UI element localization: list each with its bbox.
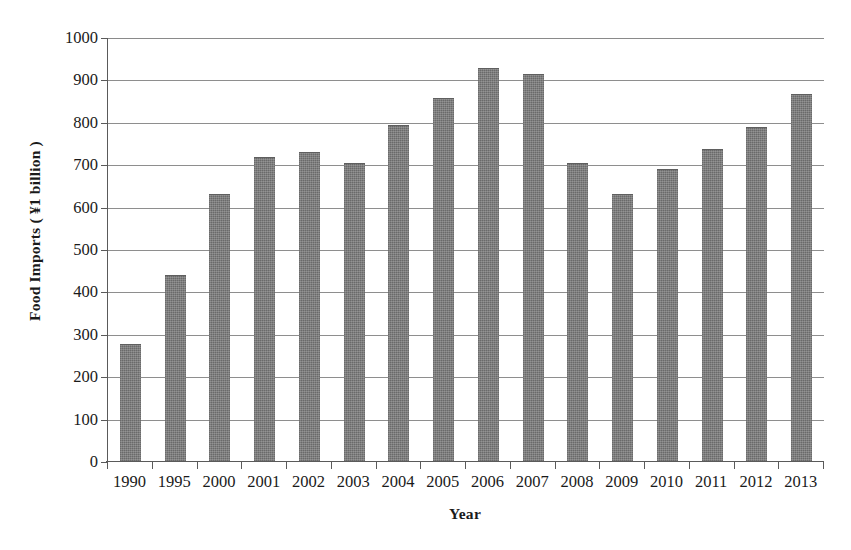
bar-slot — [779, 38, 824, 462]
y-tick-mark — [101, 377, 108, 378]
bar-slot — [511, 38, 556, 462]
bar-slot — [377, 38, 422, 462]
bar-slot — [198, 38, 243, 462]
x-axis-tick-labels: 1990199520002001200220032004200520062007… — [107, 472, 823, 496]
x-tick-label: 2011 — [689, 472, 734, 496]
bar[interactable] — [567, 163, 588, 462]
bar[interactable] — [746, 127, 767, 462]
bar-slot — [421, 38, 466, 462]
y-tick-label: 500 — [73, 240, 98, 260]
y-tick-label: 400 — [73, 282, 98, 302]
x-tick-mark — [689, 462, 690, 469]
y-tick-label: 300 — [73, 325, 98, 345]
x-tick-mark — [510, 462, 511, 469]
plot-area — [107, 38, 824, 462]
x-tick-mark — [823, 462, 824, 469]
y-tick-label: 600 — [73, 198, 98, 218]
bar[interactable] — [165, 275, 186, 462]
x-tick-mark — [376, 462, 377, 469]
bar-slot — [645, 38, 690, 462]
x-tick-mark — [152, 462, 153, 469]
y-tick-label: 900 — [73, 70, 98, 90]
y-tick-mark — [101, 80, 108, 81]
y-tick-mark — [101, 420, 108, 421]
x-axis-tick-marks — [107, 462, 823, 469]
bar[interactable] — [791, 94, 812, 462]
x-tick-mark — [331, 462, 332, 469]
x-tick-label: 1995 — [152, 472, 197, 496]
bar[interactable] — [299, 152, 320, 462]
x-tick-mark — [286, 462, 287, 469]
x-tick-mark — [465, 462, 466, 469]
y-tick-mark — [101, 250, 108, 251]
y-tick-mark — [101, 292, 108, 293]
x-tick-mark — [420, 462, 421, 469]
x-tick-mark — [734, 462, 735, 469]
x-tick-mark — [197, 462, 198, 469]
x-tick-label: 1990 — [107, 472, 152, 496]
y-tick-label: 100 — [73, 410, 98, 430]
x-tick-label: 2003 — [331, 472, 376, 496]
bar[interactable] — [612, 194, 633, 462]
x-tick-mark — [555, 462, 556, 469]
bar-slot — [600, 38, 645, 462]
y-tick-label: 200 — [73, 367, 98, 387]
bar-slot — [690, 38, 735, 462]
y-axis-title: Food Imports ( ¥1 billion ) — [22, 0, 48, 462]
bar[interactable] — [388, 125, 409, 462]
bar-slot — [332, 38, 377, 462]
y-tick-mark — [101, 335, 108, 336]
bar[interactable] — [657, 169, 678, 462]
y-tick-mark — [101, 165, 108, 166]
x-tick-label: 2004 — [376, 472, 421, 496]
bar-slot — [242, 38, 287, 462]
y-tick-label: 800 — [73, 113, 98, 133]
x-tick-label: 2002 — [286, 472, 331, 496]
bar[interactable] — [120, 344, 141, 462]
x-axis-title: Year — [107, 505, 823, 523]
x-tick-label: 2008 — [555, 472, 600, 496]
bar[interactable] — [702, 149, 723, 462]
bar[interactable] — [209, 194, 230, 462]
y-axis-tick-labels: 10009008007006005004003002001000 — [48, 0, 104, 550]
bar-slot — [108, 38, 153, 462]
bar-series — [108, 38, 824, 462]
bar-slot — [735, 38, 780, 462]
x-tick-label: 2000 — [197, 472, 242, 496]
x-tick-label: 2012 — [734, 472, 779, 496]
x-tick-label: 2001 — [241, 472, 286, 496]
bar-slot — [466, 38, 511, 462]
bar[interactable] — [523, 74, 544, 462]
x-tick-label: 2005 — [420, 472, 465, 496]
bar-slot — [153, 38, 198, 462]
x-tick-mark — [107, 462, 108, 469]
x-tick-label: 2007 — [510, 472, 555, 496]
x-tick-mark — [778, 462, 779, 469]
x-tick-label: 2009 — [599, 472, 644, 496]
x-tick-mark — [241, 462, 242, 469]
x-tick-label: 2013 — [778, 472, 823, 496]
x-tick-label: 2006 — [465, 472, 510, 496]
y-tick-mark — [101, 208, 108, 209]
y-tick-mark — [101, 123, 108, 124]
y-tick-label: 0 — [90, 452, 98, 472]
y-tick-label: 1000 — [65, 28, 98, 48]
bar[interactable] — [433, 98, 454, 462]
bar-slot — [287, 38, 332, 462]
x-tick-mark — [644, 462, 645, 469]
bar-chart-figure: Food Imports ( ¥1 billion ) 100090080070… — [0, 0, 851, 550]
bar[interactable] — [478, 68, 499, 462]
bar[interactable] — [344, 163, 365, 462]
bar[interactable] — [254, 157, 275, 462]
x-tick-label: 2010 — [644, 472, 689, 496]
y-tick-label: 700 — [73, 155, 98, 175]
y-tick-mark — [101, 38, 108, 39]
x-tick-mark — [599, 462, 600, 469]
bar-slot — [556, 38, 601, 462]
